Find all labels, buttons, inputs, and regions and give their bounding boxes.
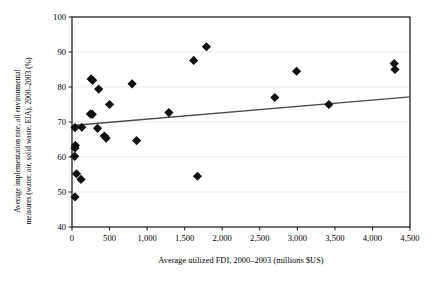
x-tick-label: 4,000 bbox=[363, 233, 382, 243]
data-point bbox=[93, 124, 102, 133]
data-point bbox=[189, 56, 198, 65]
data-point bbox=[390, 65, 399, 74]
plot-area: 40506070809010005001,0001,5002,0002,5003… bbox=[0, 0, 439, 282]
y-tick-label: 40 bbox=[57, 222, 66, 232]
scatter-chart-figure: Average implementation rate, all environ… bbox=[0, 0, 439, 282]
y-tick-label: 80 bbox=[57, 82, 66, 92]
data-point bbox=[94, 85, 103, 94]
y-tick-label: 70 bbox=[57, 117, 66, 127]
y-tick-label: 50 bbox=[57, 187, 66, 197]
x-tick-label: 2,000 bbox=[213, 233, 232, 243]
data-point bbox=[202, 42, 211, 51]
data-point bbox=[324, 100, 333, 109]
x-tick-label: 1,500 bbox=[175, 233, 194, 243]
x-tick-label: 4,500 bbox=[400, 233, 419, 243]
y-tick-label: 60 bbox=[57, 152, 66, 162]
y-tick-label: 90 bbox=[57, 47, 66, 57]
data-point bbox=[193, 172, 202, 181]
data-point bbox=[164, 108, 173, 117]
x-tick-label: 0 bbox=[70, 233, 74, 243]
x-tick-label: 1,000 bbox=[137, 233, 156, 243]
trendline bbox=[72, 97, 410, 126]
data-point bbox=[292, 67, 301, 76]
x-tick-label: 500 bbox=[103, 233, 116, 243]
data-point bbox=[105, 100, 114, 109]
x-tick-label: 3,500 bbox=[325, 233, 344, 243]
y-tick-label: 100 bbox=[53, 12, 66, 22]
data-point bbox=[132, 136, 141, 145]
data-point bbox=[270, 93, 279, 102]
x-tick-label: 3,000 bbox=[288, 233, 307, 243]
x-tick-label: 2,500 bbox=[250, 233, 269, 243]
